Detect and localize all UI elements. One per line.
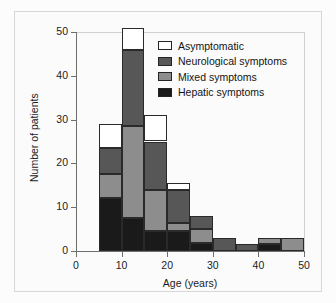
legend-item: Mixed symptoms xyxy=(158,69,287,85)
bar-segment xyxy=(190,229,213,243)
x-tick-label: 0 xyxy=(63,259,89,271)
x-tick-label: 20 xyxy=(154,259,180,271)
y-tick xyxy=(71,32,76,33)
y-tick xyxy=(71,207,76,208)
x-tick-label: 40 xyxy=(245,259,271,271)
bar-segment xyxy=(144,142,167,190)
y-axis-label: Number of patients xyxy=(28,93,40,182)
bar-segment xyxy=(122,218,145,251)
bar-segment xyxy=(144,115,167,141)
x-tick xyxy=(167,252,168,257)
legend-swatch xyxy=(158,41,172,50)
y-tick-label: 0 xyxy=(42,244,68,256)
legend-item: Neurological symptoms xyxy=(158,54,287,70)
bar-segment xyxy=(236,244,259,251)
legend-item: Hepatic symptoms xyxy=(158,85,287,101)
x-tick xyxy=(213,252,214,257)
x-axis-line xyxy=(76,251,305,252)
plot-border-right xyxy=(304,32,305,252)
bar-segment xyxy=(190,216,213,229)
bar-segment xyxy=(258,244,281,251)
bar-segment xyxy=(167,190,190,224)
bar-segment xyxy=(144,231,167,251)
legend-label: Neurological symptoms xyxy=(178,55,287,67)
bar-segment xyxy=(213,238,236,251)
y-tick-label: 50 xyxy=(42,25,68,37)
y-tick-label: 30 xyxy=(42,113,68,125)
y-tick-label: 20 xyxy=(42,156,68,168)
x-tick xyxy=(122,252,123,257)
bar-stack xyxy=(122,32,145,251)
y-tick xyxy=(71,76,76,77)
x-tick-label: 10 xyxy=(109,259,135,271)
y-tick xyxy=(71,120,76,121)
bar-segment xyxy=(122,126,145,218)
legend-swatch xyxy=(158,72,172,81)
bar-segment xyxy=(167,223,190,231)
legend-label: Asymptomatic xyxy=(178,40,244,52)
legend-item: Asymptomatic xyxy=(158,38,287,54)
bar-segment xyxy=(190,243,213,251)
legend-label: Hepatic symptoms xyxy=(178,86,264,98)
bar-segment xyxy=(167,183,190,190)
bar-segment xyxy=(99,148,122,174)
bar-segment xyxy=(144,190,167,232)
x-tick-label: 50 xyxy=(291,259,317,271)
y-tick-label: 10 xyxy=(42,200,68,212)
bar-segment xyxy=(258,238,281,245)
y-axis-line xyxy=(76,32,77,252)
bar-segment xyxy=(99,174,122,198)
x-tick xyxy=(258,252,259,257)
chart-legend: AsymptomaticNeurological symptomsMixed s… xyxy=(158,38,287,100)
legend-label: Mixed symptoms xyxy=(178,71,257,83)
x-tick xyxy=(76,252,77,257)
x-tick-label: 30 xyxy=(200,259,226,271)
bar-segment xyxy=(281,238,304,251)
legend-swatch xyxy=(158,88,172,97)
legend-swatch xyxy=(158,57,172,66)
bar-segment xyxy=(122,50,145,127)
y-tick xyxy=(71,163,76,164)
bar-segment xyxy=(167,231,190,251)
bar-stack xyxy=(99,32,122,251)
x-tick xyxy=(304,252,305,257)
bar-segment xyxy=(99,124,122,148)
bar-segment xyxy=(99,198,122,251)
x-axis-label: Age (years) xyxy=(76,277,304,289)
bar-segment xyxy=(122,28,145,50)
y-tick-label: 40 xyxy=(42,69,68,81)
figure-container: 01020304050 01020304050 Number of patien… xyxy=(0,0,336,303)
